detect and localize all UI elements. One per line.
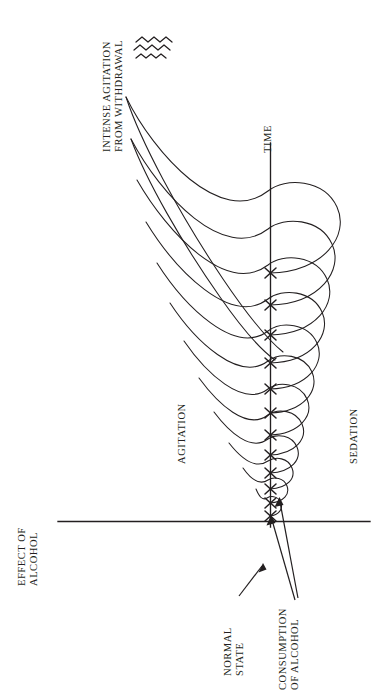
cycle-curve-7	[170, 303, 314, 413]
normal-state-arrow	[239, 563, 267, 596]
cycle-curve-5	[199, 378, 304, 455]
normal-state-line1: NORMAL	[222, 627, 234, 676]
cycle-curve-10	[137, 180, 330, 335]
peak-label-line2: FROM WITHDRAWAL	[113, 40, 125, 152]
cycle-curve-6	[184, 341, 309, 435]
normal-state-line2: STATE	[234, 627, 246, 676]
x-axis-label: TIME	[262, 125, 275, 153]
cycle-curve-12	[126, 97, 340, 273]
inner-leading-edge	[131, 139, 275, 360]
figure-canvas: EFFECT OF ALCOHOL TIME AGITATION SEDATIO…	[0, 0, 386, 696]
cycle-curve-11	[131, 139, 335, 305]
y-axis-label: EFFECT OF ALCOHOL	[16, 527, 41, 586]
peak-label-line1: INTENSE AGITATION	[101, 40, 113, 152]
peak-label: INTENSE AGITATION FROM WITHDRAWAL	[101, 40, 126, 152]
y-axis-label-line2: ALCOHOL	[28, 527, 40, 586]
cycle-curve-8	[157, 263, 319, 389]
consumption-callout: CONSUMPTION OF ALCOHOL	[277, 608, 302, 690]
cycle-curve-9	[146, 222, 325, 363]
consumption-line1: CONSUMPTION	[277, 608, 289, 690]
sedation-zone-label: SEDATION	[348, 408, 361, 464]
y-axis-label-line1: EFFECT OF	[16, 527, 28, 586]
normal-state-callout: NORMAL STATE	[222, 627, 247, 676]
consumption-line2: OF ALCOHOL	[289, 608, 301, 690]
cycle-curves	[126, 97, 340, 516]
consumption-arrow-2	[275, 497, 299, 598]
alcohol-effect-diagram	[0, 0, 386, 696]
agitation-zone-label: AGITATION	[176, 403, 189, 464]
tremor-squiggle-icon	[134, 37, 172, 58]
